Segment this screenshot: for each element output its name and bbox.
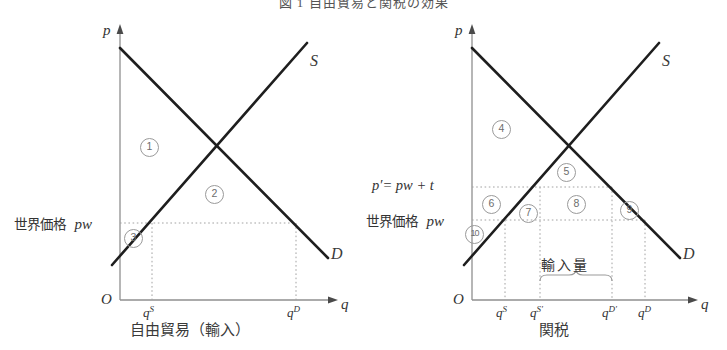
caption-free-trade: 自由貿易（輸入） <box>0 318 380 339</box>
y-axis-label-free: p <box>103 22 111 39</box>
region-3: 3 <box>124 229 143 248</box>
demand-curve-label-tariff: D <box>683 245 695 263</box>
world-price-label-tariff: 世界価格 pw <box>366 210 444 230</box>
region-10: 10 <box>465 225 484 244</box>
world-price-label-free: 世界価格 pw <box>14 213 92 233</box>
import-quantity-label: 輸入量 <box>541 254 589 274</box>
caption-tariff: 関税 <box>380 318 727 339</box>
world-price-text-free: 世界価格 <box>14 216 66 232</box>
figure-canvas: 図 1 自由貿易と関税の効果 p q O <box>0 0 727 350</box>
demand-curve-tariff <box>472 48 680 258</box>
x-axis-label-tariff: q <box>701 296 709 313</box>
axes-free <box>117 24 338 303</box>
origin-label-free: O <box>101 291 112 308</box>
region-6: 6 <box>482 195 501 214</box>
x-axis-label-free: q <box>341 296 349 313</box>
supply-curve-free <box>112 43 307 265</box>
region-2: 2 <box>205 185 224 204</box>
panel-free-trade: p q O S D 世界価格 pw qS qD 1 2 3 自由貿易（輸入） <box>0 0 380 350</box>
supply-curve-tariff <box>464 43 659 265</box>
region-8: 8 <box>567 195 586 214</box>
demand-curve-label-free: D <box>331 245 343 263</box>
world-price-text-tariff: 世界価格 <box>366 213 418 229</box>
tariff-price-label: p′= pw + t <box>372 177 434 194</box>
free-trade-plot <box>0 0 380 350</box>
panel-tariff: p q O S D p′= pw + t 世界価格 pw qS qS′ qD′ … <box>380 0 727 350</box>
region-9: 9 <box>620 201 639 220</box>
y-axis-label-tariff: p <box>455 22 463 39</box>
region-1: 1 <box>140 138 159 157</box>
world-price-symbol-tariff: pw <box>422 213 445 229</box>
world-price-symbol-free: pw <box>70 216 93 232</box>
region-7: 7 <box>519 204 538 223</box>
region-4: 4 <box>492 120 511 139</box>
region-5: 5 <box>557 163 576 182</box>
supply-curve-label-free: S <box>310 52 318 70</box>
guides-free <box>120 223 296 300</box>
origin-label-tariff: O <box>453 291 464 308</box>
tariff-plot <box>380 0 727 350</box>
supply-curve-label-tariff: S <box>662 52 670 70</box>
